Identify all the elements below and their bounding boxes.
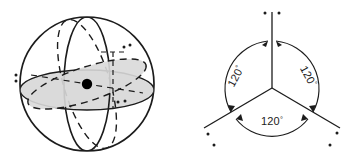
angle-label-bottom: 120° bbox=[261, 115, 283, 128]
terminal-dot bbox=[207, 133, 210, 136]
angle-panel: 120° 120° 120° bbox=[204, 12, 340, 147]
lone-pair-dot bbox=[123, 46, 126, 49]
lone-pair-dot bbox=[15, 74, 18, 77]
lone-pair-dot bbox=[117, 101, 120, 104]
lone-pair-dot bbox=[124, 100, 127, 103]
terminal-dot bbox=[278, 12, 281, 15]
terminal-dot bbox=[213, 144, 216, 147]
terminal-dot bbox=[264, 12, 267, 15]
central-atom-dot bbox=[82, 79, 92, 89]
terminal-dot bbox=[336, 132, 339, 135]
figure-canvas: 120° 120° 120° bbox=[0, 0, 359, 167]
sphere-panel bbox=[15, 13, 155, 155]
angle-label-upper-right: 120° bbox=[298, 63, 319, 88]
terminal-dot bbox=[329, 144, 332, 147]
lone-pair-dot bbox=[129, 44, 132, 47]
angle-label-upper-left: 120° bbox=[225, 63, 246, 88]
geometry-figure: 120° 120° 120° bbox=[0, 0, 359, 167]
lone-pair-dot bbox=[15, 80, 18, 83]
